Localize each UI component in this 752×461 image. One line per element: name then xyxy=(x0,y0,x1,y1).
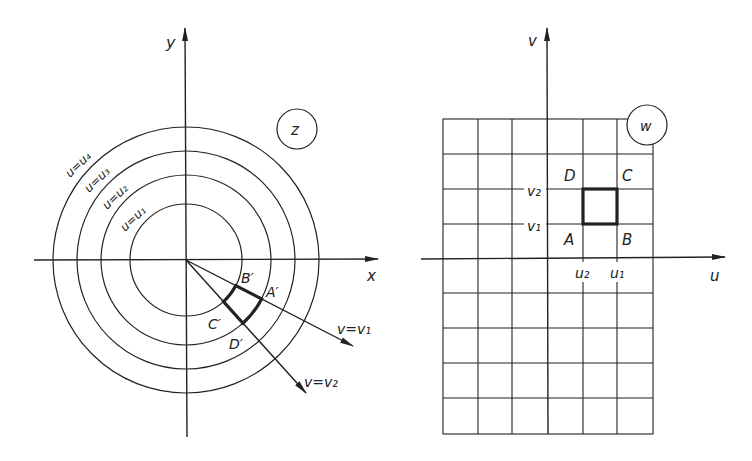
tick-v1: v₁ xyxy=(527,218,541,234)
tick-v2: v₂ xyxy=(527,183,541,199)
point-b: B xyxy=(622,231,632,249)
point-c-prime: C′ xyxy=(208,316,222,332)
label-u2: u=u₂ xyxy=(99,181,130,212)
point-a: A xyxy=(563,231,574,249)
point-a-prime: A′ xyxy=(265,284,280,300)
z-plane-panel: y x z u=u₄ u=u₃ u=u₂ u=u₁ B′ A′ C′ D′ v=… xyxy=(34,28,378,437)
point-b-prime: B′ xyxy=(241,270,255,286)
x-axis-label: x xyxy=(366,267,376,285)
point-d: D xyxy=(564,167,576,185)
w-plane-panel: v u w v₂ v₁ u₂ u₁ D C A B xyxy=(421,28,725,434)
point-d-prime: D′ xyxy=(229,336,244,352)
y-axis xyxy=(185,28,187,437)
v-axis-label: v xyxy=(528,32,538,50)
x-axis xyxy=(34,259,378,260)
u-axis xyxy=(421,257,725,259)
conformal-mapping-diagram: y x z u=u₄ u=u₃ u=u₂ u=u₁ B′ A′ C′ D′ v=… xyxy=(0,0,752,461)
rectangle-abcd xyxy=(583,189,617,224)
label-v2: v=v₂ xyxy=(304,374,338,390)
z-plane-label: z xyxy=(290,121,300,139)
tick-u1: u₁ xyxy=(610,265,625,281)
point-c: C xyxy=(622,167,633,185)
y-axis-label: y xyxy=(165,33,176,52)
label-u1: u=u₁ xyxy=(117,203,148,234)
w-plane-label: w xyxy=(640,118,652,134)
tick-u2: u₂ xyxy=(575,265,590,281)
label-v1: v=v₁ xyxy=(337,321,371,337)
v-axis xyxy=(547,28,548,434)
u-axis-label: u xyxy=(710,267,720,285)
label-u3: u=u₃ xyxy=(81,164,112,195)
label-u4: u=u₄ xyxy=(62,149,93,180)
curvilinear-region xyxy=(224,286,262,324)
